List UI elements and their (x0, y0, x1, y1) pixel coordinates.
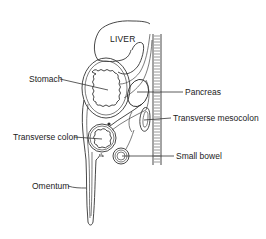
transverse-colon-label: Transverse colon (13, 132, 78, 142)
omentum-label: Omentum (32, 181, 69, 191)
transverse-mesocolon-label: Transverse mesocolon (173, 113, 259, 123)
stomach-shape (82, 58, 130, 118)
liver-label: LIVER (110, 34, 136, 44)
small-bowel-label: Small bowel (176, 151, 222, 161)
posterior-wall (153, 34, 161, 165)
pancreas-shape (124, 76, 152, 110)
stomach-label: Stomach (29, 74, 63, 84)
anatomy-diagram: LIVER (0, 0, 266, 239)
pancreas-label: Pancreas (185, 87, 221, 97)
omentum-shape (82, 100, 100, 225)
leader-lines (60, 79, 183, 188)
